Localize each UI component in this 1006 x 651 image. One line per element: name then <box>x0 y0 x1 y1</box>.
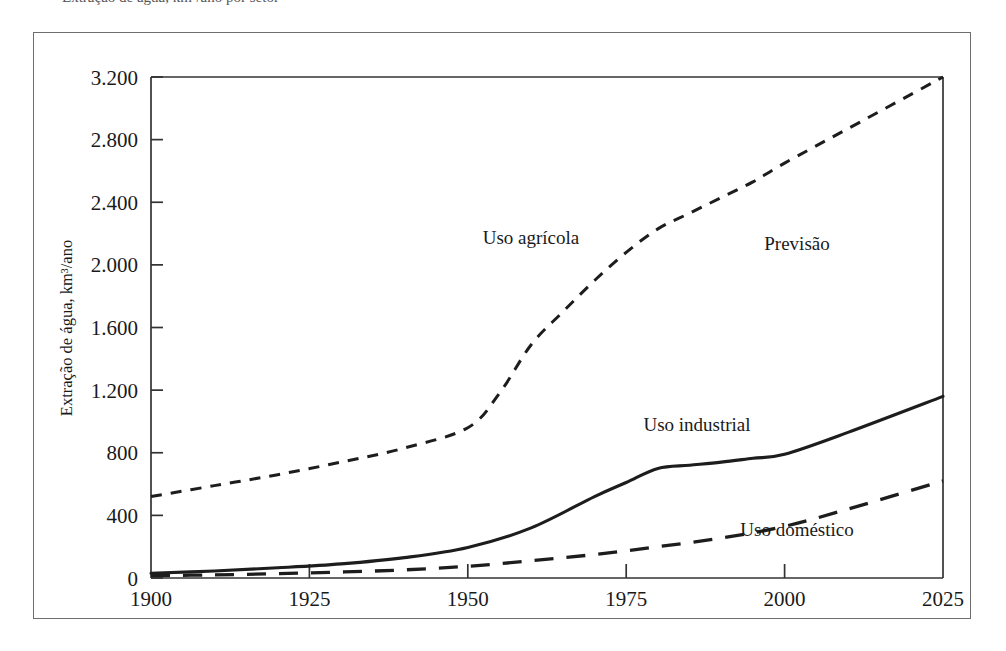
line-chart-canvas: Extração de água, km³/ano 04008001.2001.… <box>0 0 1006 651</box>
series-line-uso-agr-cola <box>151 77 943 497</box>
x-tick-label: 2000 <box>764 587 806 611</box>
y-tick-label: 2.800 <box>91 128 138 152</box>
annotation-uso-industrial: Uso industrial <box>643 414 750 435</box>
annotation-uso-dom-stico: Uso doméstico <box>740 519 853 540</box>
series-annotations: Uso agrícolaPrevisãoUso industrialUso do… <box>483 227 854 540</box>
x-tick-label: 1900 <box>130 587 172 611</box>
x-tick-label: 1950 <box>447 587 489 611</box>
y-tick-label: 1.600 <box>91 316 138 340</box>
x-axis-ticks: 190019251950197520002025 <box>130 564 964 611</box>
annotation-previs-o: Previsão <box>764 233 829 254</box>
y-tick-label: 2.000 <box>91 253 138 277</box>
y-tick-label: 3.200 <box>91 66 138 90</box>
figure-root: Extração de água, km³/ano por setor Extr… <box>0 0 1006 651</box>
annotation-uso-agr-cola: Uso agrícola <box>483 227 580 248</box>
x-tick-label: 1925 <box>288 587 330 611</box>
x-tick-label: 2025 <box>922 587 964 611</box>
y-tick-label: 1.200 <box>91 379 138 403</box>
x-tick-label: 1975 <box>605 587 647 611</box>
y-tick-label: 400 <box>107 504 139 528</box>
y-axis-title: Extração de água, km³/ano <box>57 240 76 416</box>
series-layer <box>151 77 943 576</box>
series-line-uso-industrial <box>151 396 943 573</box>
y-tick-label: 2.400 <box>91 191 138 215</box>
y-axis-ticks: 04008001.2001.6002.0002.4002.8003.200 <box>91 66 163 591</box>
y-tick-label: 800 <box>107 441 139 465</box>
